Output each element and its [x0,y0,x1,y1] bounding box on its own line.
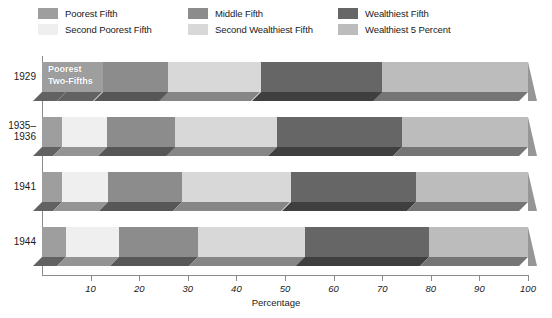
legend-swatch [338,24,358,35]
bar-segment-bottom-face [268,147,402,156]
legend-item: Wealthiest Fifth [338,8,429,19]
x-axis-tick-label: 90 [474,283,485,294]
bar-segment-bottom-face [94,92,169,101]
x-axis-tick-label: 40 [231,283,242,294]
bar-segment [382,62,528,92]
x-axis-tick-label: 100 [520,283,536,294]
stacked-bar-chart: Poorest FifthSecond Poorest FifthMiddle … [0,0,552,318]
bar-segment-bottom-face [159,92,260,101]
x-axis-tick [236,276,237,281]
x-axis-tick [139,276,140,281]
bar-segment-bottom-face [296,257,429,266]
x-axis-tick [188,276,189,281]
bar-segment [291,172,416,202]
legend-label: Second Poorest Fifth [65,24,152,35]
x-axis-title: Percentage [0,297,552,308]
x-axis-tick-label: 50 [280,283,291,294]
bar-segment-bottom-face [166,147,277,156]
bar-segment [62,117,107,147]
bar-segment-bottom-face [189,257,306,266]
x-axis-tick-label: 80 [426,283,437,294]
bar-segment [261,62,383,92]
legend-item: Second Poorest Fifth [38,24,152,35]
bar-segment-bottom-face [252,92,383,101]
bar-segment [42,62,66,92]
x-axis-tick [528,276,529,281]
chart-legend: Poorest FifthSecond Poorest FifthMiddle … [38,6,538,42]
bar-end-cap [528,62,537,101]
bar-segment-bottom-face [282,202,416,211]
legend-item: Poorest Fifth [38,8,118,19]
legend-label: Poorest Fifth [65,8,118,19]
legend-label: Wealthiest 5 Percent [365,24,450,35]
bar-segment [103,62,169,92]
legend-swatch [188,8,208,19]
legend-swatch [38,8,58,19]
x-axis-tick-label: 30 [183,283,194,294]
bar-segment [66,62,102,92]
legend-swatch [38,24,58,35]
bar-segment [108,172,182,202]
bar-end-cap [528,172,537,211]
legend-item: Second Wealthiest Fifth [188,24,313,35]
bar-end-cap [528,227,537,266]
legend-label: Middle Fifth [215,8,263,19]
x-axis-tick [334,276,335,281]
bar-segment [198,227,306,257]
x-axis-tick-label: 10 [85,283,96,294]
legend-label: Wealthiest Fifth [365,8,429,19]
table-row [0,227,552,257]
bar-segment [119,227,198,257]
bar-segment [42,227,66,257]
bar-segment [182,172,290,202]
legend-item: Wealthiest 5 Percent [338,24,450,35]
legend-item: Middle Fifth [188,8,263,19]
x-axis-tick [285,276,286,281]
bar-segment [277,117,402,147]
bar-segment [42,117,62,147]
bar-segment-bottom-face [420,257,528,266]
x-axis-tick-label: 70 [377,283,388,294]
bar-segment [402,117,528,147]
bar-segment [175,117,277,147]
table-row [0,117,552,147]
x-axis-tick-label: 20 [134,283,145,294]
bar-segment [42,172,62,202]
table-row: PoorestTwo-Fifths [0,62,552,92]
bar-segment-bottom-face [99,202,182,211]
bar-end-cap [528,117,537,156]
x-axis-tick [479,276,480,281]
bar-segment-bottom-face [393,147,528,156]
x-axis-tick [91,276,92,281]
bar-segment-bottom-face [173,202,290,211]
x-axis-tick [431,276,432,281]
bar-segment [168,62,260,92]
bar-segment [62,172,108,202]
bar-segment [305,227,429,257]
bar-segment-bottom-face [407,202,528,211]
bar-segment-bottom-face [98,147,176,156]
x-axis-tick-label: 60 [328,283,339,294]
bar-segment-bottom-face [110,257,198,266]
table-row [0,172,552,202]
bar-segment [416,172,528,202]
bar-segment [107,117,176,147]
bar-segment [429,227,528,257]
legend-swatch [188,24,208,35]
bar-segment [66,227,119,257]
legend-swatch [338,8,358,19]
legend-label: Second Wealthiest Fifth [215,24,313,35]
bar-segment-bottom-face [373,92,528,101]
x-axis-tick [382,276,383,281]
